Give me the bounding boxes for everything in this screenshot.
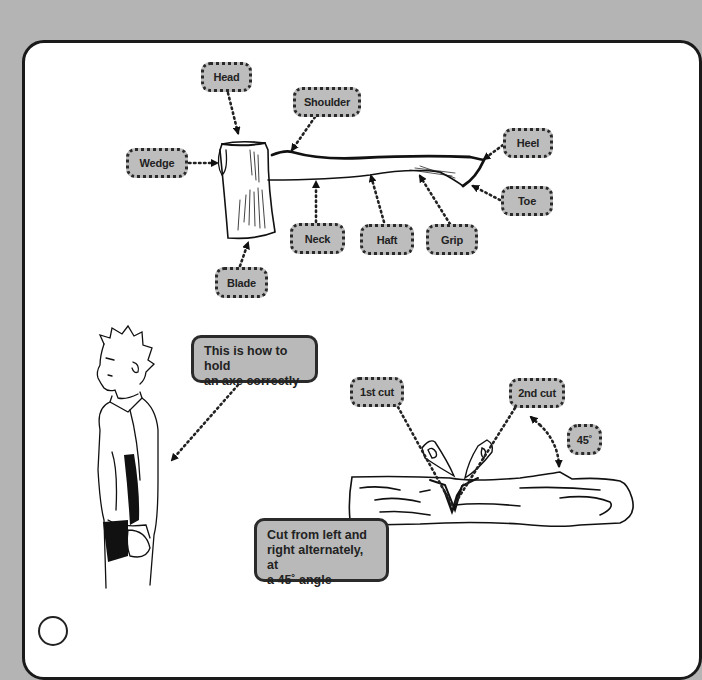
cutting-note-line-2: right alternately, at (267, 543, 376, 573)
label-blade: Blade (215, 267, 268, 298)
label-neck: Neck (290, 223, 345, 254)
cutting-note-line-1: Cut from left and (267, 528, 376, 543)
axe-handle-silhouette (124, 454, 139, 525)
label-angle-45: 45˚ (567, 424, 602, 455)
holding-instruction-note: This is how to hold an axe correctly (191, 335, 318, 383)
log-illustration (349, 472, 633, 526)
axe-head-silhouette (103, 520, 128, 562)
label-wedge: Wedge (126, 148, 188, 178)
label-second-cut: 2nd cut (509, 378, 565, 408)
label-haft: Haft (360, 224, 414, 255)
cutting-note-line-3: a 45˚ angle (267, 573, 376, 588)
label-head: Head (201, 62, 252, 92)
label-grip: Grip (426, 224, 478, 255)
label-shoulder: Shoulder (293, 87, 361, 117)
label-first-cut: 1st cut (350, 377, 404, 407)
holding-note-line-2: an axe correctly (204, 374, 305, 389)
holding-note-line-1: This is how to hold (204, 344, 305, 374)
holding-pointer-line (172, 385, 238, 460)
page-corner-circle (38, 616, 68, 646)
cutting-instruction-note: Cut from left and right alternately, at … (254, 518, 389, 582)
label-heel: Heel (503, 128, 553, 158)
v-notch (440, 482, 464, 515)
label-toe: Toe (501, 186, 553, 216)
